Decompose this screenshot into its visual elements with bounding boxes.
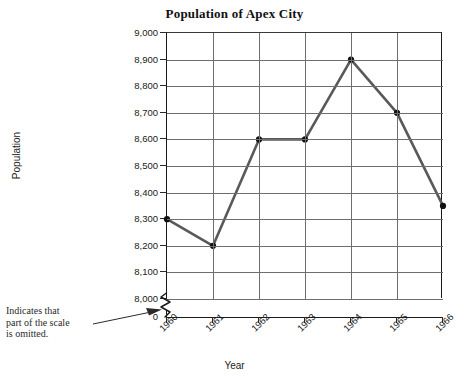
y-tick-label: 9,000 bbox=[112, 27, 158, 38]
annotation-arrow-icon bbox=[92, 300, 170, 326]
x-tick-label-1962: 1962 bbox=[249, 311, 272, 334]
chart-title: Population of Apex City bbox=[0, 6, 469, 22]
gridline-vertical bbox=[351, 33, 352, 299]
y-axis-title: Population bbox=[11, 116, 22, 196]
x-axis-title: Year bbox=[0, 360, 469, 371]
x-tick-label-1965: 1965 bbox=[387, 311, 410, 334]
annotation-line-3: is omitted. bbox=[6, 328, 98, 340]
x-tick-label-1966: 1966 bbox=[433, 311, 456, 334]
y-tick-label: 8,700 bbox=[112, 107, 158, 118]
y-tick-label: 8,200 bbox=[112, 240, 158, 251]
plot-area bbox=[166, 32, 442, 298]
scale-break-annotation: Indicates that part of the scale is omit… bbox=[6, 305, 98, 340]
y-tick-label: 8,100 bbox=[112, 266, 158, 277]
gridline-horizontal bbox=[167, 299, 443, 300]
data-point-1966 bbox=[440, 203, 446, 209]
gridline-vertical bbox=[213, 33, 214, 299]
gridline-vertical bbox=[305, 33, 306, 299]
annotation-line-1: Indicates that bbox=[6, 305, 98, 317]
y-axis-tick-labels: 9,000 8,900 8,800 8,700 8,600 8,500 8,40… bbox=[108, 0, 158, 385]
y-tick-label: 8,600 bbox=[112, 133, 158, 144]
y-tick-label: 8,400 bbox=[112, 187, 158, 198]
x-tick-label-1961: 1961 bbox=[203, 311, 226, 334]
annotation-line-2: part of the scale bbox=[6, 317, 98, 329]
gridline-vertical bbox=[259, 33, 260, 299]
y-tick-label: 8,900 bbox=[112, 54, 158, 65]
y-tick-label: 8,300 bbox=[112, 213, 158, 224]
x-tick-label-1964: 1964 bbox=[341, 311, 364, 334]
gridline-vertical bbox=[397, 33, 398, 299]
x-tick-label-1963: 1963 bbox=[295, 311, 318, 334]
y-tick-label: 8,500 bbox=[112, 160, 158, 171]
y-tick-label: 8,800 bbox=[112, 80, 158, 91]
